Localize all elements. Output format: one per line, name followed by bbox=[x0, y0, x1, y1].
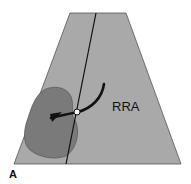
sample-volume-marker bbox=[74, 109, 80, 115]
panel-label: A bbox=[9, 168, 17, 180]
diagram-canvas bbox=[0, 0, 191, 184]
vessel-label: RRA bbox=[112, 99, 139, 114]
